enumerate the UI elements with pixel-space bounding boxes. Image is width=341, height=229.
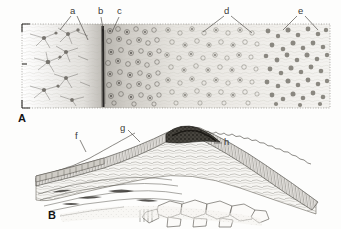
figure-root: a b c d e A [0, 0, 341, 229]
label-b: b [98, 6, 103, 16]
panel-a: a b c d e A [0, 0, 341, 118]
label-c: c [117, 6, 122, 16]
label-f: f [75, 131, 78, 141]
panel-a-illustration [0, 0, 341, 118]
panel-letter-b: B [48, 210, 56, 221]
panel-a-tissue [22, 24, 330, 108]
label-e: e [298, 6, 303, 16]
label-d: d [224, 6, 229, 16]
label-h: h [224, 137, 229, 147]
panel-b: f g h B [0, 118, 341, 229]
label-g: g [120, 123, 125, 133]
label-a: a [70, 6, 75, 16]
